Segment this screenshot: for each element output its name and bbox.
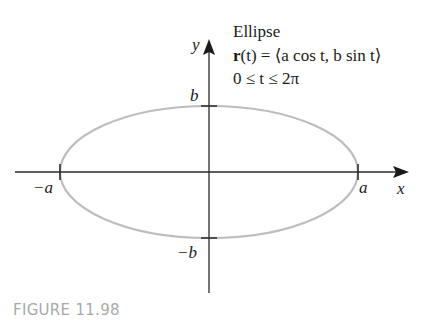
y-axis-label: y [190,35,200,54]
x-axis-label: x [396,179,405,198]
annotation-title: Ellipse [233,22,280,41]
tick-label-neg-a: −a [33,178,53,197]
figure-caption: FIGURE 11.98 [13,301,120,319]
annotation-equation: r(t) = ⟨a cos t, b sin t⟩ [233,46,381,65]
tick-label-b: b [190,86,199,105]
annotation-domain: 0 ≤ t ≤ 2π [233,69,299,88]
tick-label-a: a [359,178,368,197]
tick-label-neg-b: −b [177,243,197,262]
ellipse-diagram: y x b −b −a a Ellipse r(t) = ⟨a cos t, b… [0,0,431,328]
equation-rest: (t) = ⟨a cos t, b sin t⟩ [241,46,382,65]
